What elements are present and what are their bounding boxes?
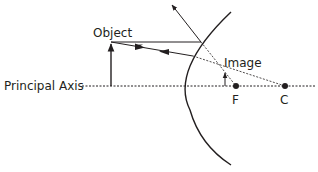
incident-arrow-right — [135, 44, 145, 51]
reflected-arrow-left — [159, 49, 169, 55]
incident-ray-to-center — [111, 42, 193, 56]
reflected-ray-diverging — [172, 5, 201, 42]
center-label: C — [280, 93, 288, 107]
image-label: Image — [224, 56, 262, 70]
principal-axis-label: Principal Axis — [4, 79, 84, 93]
ray-diagram: Object Image Principal Axis F C — [0, 0, 318, 172]
focus-point — [233, 83, 239, 89]
object-label: Object — [93, 26, 132, 40]
focus-label: F — [232, 93, 239, 107]
convex-mirror — [185, 12, 231, 165]
center-point — [282, 83, 288, 89]
